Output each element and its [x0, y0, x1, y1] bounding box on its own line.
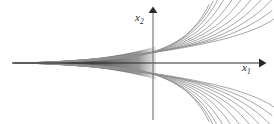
x-axis-label-subscript: 1 — [247, 67, 251, 76]
y-axis-label-subscript: 2 — [140, 17, 144, 26]
trajectory-curves-lower — [13, 63, 274, 124]
x-axis-label: x1 — [242, 62, 251, 73]
y-axis-label: x2 — [135, 12, 144, 23]
phase-portrait-figure: x1 x2 — [0, 0, 274, 124]
x-axis-arrow — [259, 58, 267, 67]
trajectory-curves-upper — [13, 0, 274, 63]
y-axis-arrow — [149, 7, 158, 14]
